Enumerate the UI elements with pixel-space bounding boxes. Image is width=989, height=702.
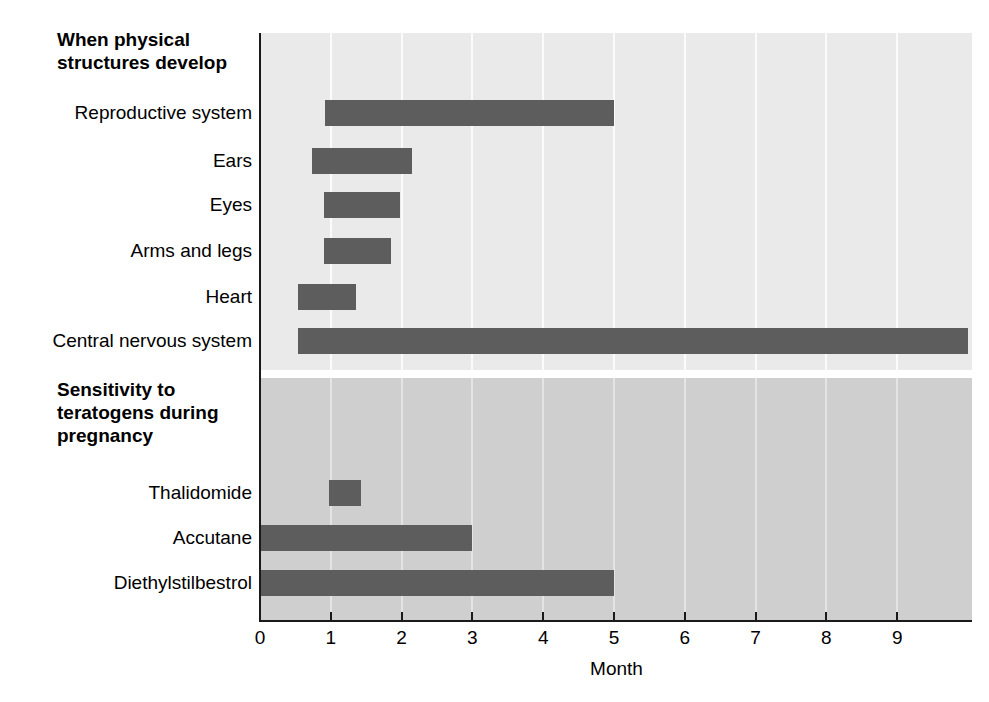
x-tick-label: 5 — [594, 626, 634, 650]
x-tick — [259, 612, 261, 621]
x-tick-label: 0 — [240, 626, 280, 650]
bar — [325, 100, 614, 126]
x-axis-title: Month — [261, 658, 972, 680]
x-tick — [542, 612, 544, 621]
bar — [260, 570, 614, 596]
category-label: Heart — [206, 286, 252, 308]
bar — [260, 525, 472, 551]
y-axis-line — [259, 33, 261, 621]
x-tick-label: 6 — [665, 626, 705, 650]
x-tick — [401, 612, 403, 621]
gridline — [613, 33, 615, 370]
gridline — [896, 33, 898, 370]
gridline — [825, 378, 827, 620]
gridline — [684, 33, 686, 370]
bar — [312, 148, 412, 174]
heading-teratogen-sensitivity: Sensitivity to teratogens during pregnan… — [57, 378, 257, 447]
bar — [298, 284, 355, 310]
heading-line: teratogens during — [57, 401, 257, 424]
x-tick-label: 7 — [736, 626, 776, 650]
category-label: Reproductive system — [75, 102, 252, 124]
gridline — [755, 378, 757, 620]
heading-line: pregnancy — [57, 424, 257, 447]
bar — [324, 238, 391, 264]
x-tick-label: 9 — [877, 626, 917, 650]
bar — [329, 480, 360, 506]
x-tick — [330, 612, 332, 621]
category-label: Thalidomide — [149, 482, 253, 504]
category-label: Diethylstilbestrol — [114, 572, 252, 594]
gridline — [825, 33, 827, 370]
heading-line: Sensitivity to — [57, 378, 257, 401]
x-tick-label: 1 — [311, 626, 351, 650]
prenatal-development-chart: Reproductive systemEarsEyesArms and legs… — [0, 0, 989, 702]
x-tick-label: 3 — [452, 626, 492, 650]
gridline — [471, 33, 473, 370]
gridline — [401, 33, 403, 370]
gridline — [542, 33, 544, 370]
x-tick — [896, 612, 898, 621]
category-label: Ears — [213, 150, 252, 172]
x-tick — [755, 612, 757, 621]
x-axis-line — [259, 620, 972, 622]
x-tick — [471, 612, 473, 621]
x-tick-label: 4 — [523, 626, 563, 650]
x-tick — [825, 612, 827, 621]
category-label: Central nervous system — [52, 330, 252, 352]
bar — [324, 192, 400, 218]
x-tick — [613, 612, 615, 621]
heading-line: When physical — [57, 28, 257, 51]
x-tick — [684, 612, 686, 621]
x-tick-label: 8 — [806, 626, 846, 650]
gridline — [755, 33, 757, 370]
category-label: Eyes — [210, 194, 252, 216]
gridline — [896, 378, 898, 620]
category-label: Arms and legs — [131, 240, 252, 262]
gridline — [684, 378, 686, 620]
x-tick-label: 2 — [382, 626, 422, 650]
heading-line: structures develop — [57, 51, 257, 74]
category-label: Accutane — [173, 527, 252, 549]
bar — [298, 328, 968, 354]
heading-physical-structures: When physical structures develop — [57, 28, 257, 74]
